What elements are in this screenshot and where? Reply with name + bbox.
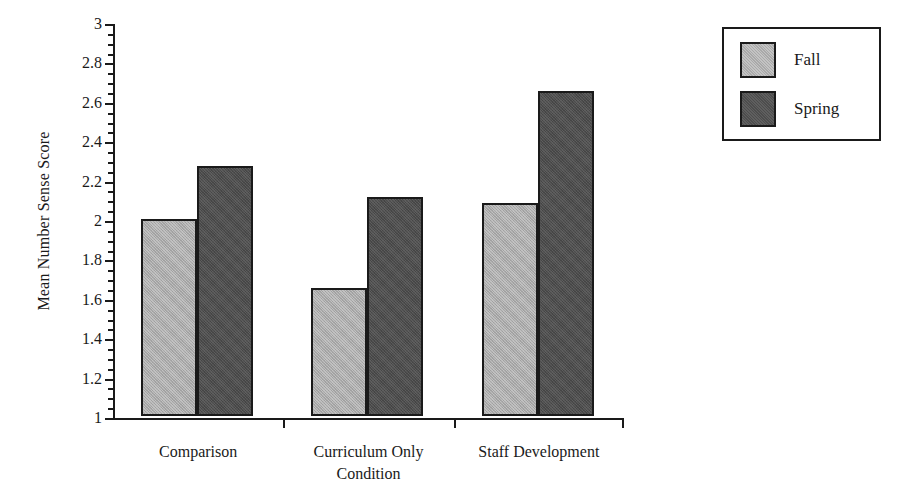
y-tick-minor: [108, 191, 114, 193]
y-tick-major: [105, 182, 114, 184]
x-category-label: Comparison: [113, 442, 283, 462]
y-tick-minor: [108, 113, 114, 115]
y-tick-minor: [108, 231, 114, 233]
legend-swatch-spring: [740, 91, 776, 127]
y-tick-minor: [108, 211, 114, 213]
y-tick-major: [105, 103, 114, 105]
bar-spring-staff-development: [538, 91, 594, 416]
y-tick-minor: [108, 369, 114, 371]
legend-swatch-fall: [740, 42, 776, 78]
y-tick-minor: [108, 83, 114, 85]
y-tick-major: [105, 260, 114, 262]
y-tick-minor: [108, 44, 114, 46]
y-tick-label: 1.2: [82, 370, 102, 388]
bar-spring-comparison: [197, 166, 253, 416]
y-tick-label: 1.6: [82, 291, 102, 309]
legend: Fall Spring: [722, 27, 881, 141]
y-tick-minor: [108, 310, 114, 312]
y-tick-label: 1.4: [82, 330, 102, 348]
bar-spring-curriculum-only: [367, 197, 423, 416]
y-tick-label: 3: [94, 15, 102, 33]
y-tick-minor: [108, 398, 114, 400]
y-tick-minor: [108, 349, 114, 351]
y-tick-minor: [108, 388, 114, 390]
y-tick-label: 2.6: [82, 94, 102, 112]
y-tick-label: 2.4: [82, 133, 102, 151]
y-tick-label: 2.2: [82, 173, 102, 191]
y-tick-minor: [108, 132, 114, 134]
y-tick-minor: [108, 290, 114, 292]
y-tick-minor: [108, 93, 114, 95]
y-tick-label: 1.8: [82, 251, 102, 269]
y-axis-label: Mean Number Sense Score: [35, 91, 53, 351]
y-tick-major: [105, 418, 114, 420]
legend-label-fall: Fall: [794, 50, 820, 70]
legend-item-spring: Spring: [740, 91, 839, 127]
x-category-label: Curriculum Only: [283, 442, 453, 462]
y-tick-label: 2: [94, 212, 102, 230]
y-tick-minor: [108, 251, 114, 253]
bar-chart-figure: Mean Number Sense Score 11.21.41.61.822.…: [0, 0, 910, 497]
y-tick-label: 1: [94, 409, 102, 427]
y-tick-major: [105, 142, 114, 144]
y-tick-minor: [108, 280, 114, 282]
x-category-label: Staff Development: [454, 442, 624, 462]
y-tick-minor: [108, 359, 114, 361]
y-tick-minor: [108, 201, 114, 203]
x-axis-label: Condition: [113, 465, 624, 483]
y-tick-minor: [108, 270, 114, 272]
plot-area: 11.21.41.61.822.22.42.62.83 ComparisonCu…: [113, 24, 623, 418]
y-tick-minor: [108, 34, 114, 36]
y-tick-major: [105, 221, 114, 223]
y-tick-minor: [108, 123, 114, 125]
bar-fall-staff-development: [482, 203, 538, 416]
y-tick-minor: [108, 241, 114, 243]
y-tick-minor: [108, 54, 114, 56]
bar-fall-comparison: [141, 219, 197, 416]
y-tick-major: [105, 379, 114, 381]
legend-label-spring: Spring: [794, 99, 839, 119]
y-tick-major: [105, 24, 114, 26]
y-tick-minor: [108, 329, 114, 331]
legend-item-fall: Fall: [740, 42, 820, 78]
bar-fall-curriculum-only: [311, 288, 367, 416]
y-tick-minor: [108, 152, 114, 154]
x-tick-separator: [454, 418, 456, 428]
x-tick-separator: [283, 418, 285, 428]
y-tick-label: 2.8: [82, 54, 102, 72]
x-axis-line: [113, 418, 624, 420]
y-tick-major: [105, 339, 114, 341]
y-tick-minor: [108, 73, 114, 75]
x-tick-end: [622, 418, 624, 428]
y-tick-minor: [108, 320, 114, 322]
y-tick-major: [105, 63, 114, 65]
y-tick-minor: [108, 408, 114, 410]
y-tick-minor: [108, 172, 114, 174]
y-tick-minor: [108, 162, 114, 164]
y-tick-major: [105, 300, 114, 302]
